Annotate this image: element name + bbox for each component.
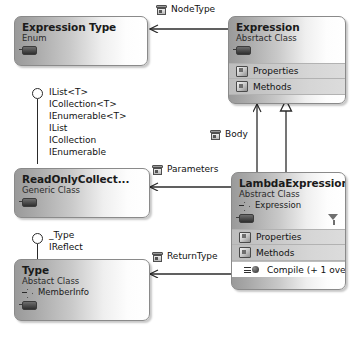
property-box-icon: [156, 5, 167, 15]
base-class-row: MemberInfo: [22, 287, 142, 298]
class-stereotype: Abstract Class: [239, 189, 338, 199]
base-class-row: Expression: [239, 200, 338, 211]
association-label-text: Parameters: [167, 164, 219, 175]
property-box-icon: [210, 130, 221, 140]
class-diagram-canvas: NodeType Body Parameters ReturnType ILis…: [0, 0, 361, 338]
class-stereotype: Generic Class: [22, 185, 142, 195]
member-label: Compile (+ 1 ove...: [267, 264, 346, 276]
class-name: Expression Type: [22, 21, 140, 33]
folder-icon: [239, 247, 251, 258]
interface-label: IEnumerable: [49, 147, 106, 159]
compartment-label: Methods: [253, 81, 291, 93]
compartment-label: Properties: [253, 65, 298, 77]
class-name: Expression: [236, 21, 338, 33]
interface-lollipop-readonlycollection[interactable]: IList<T> ICollection<T> IEnumerable<T> I…: [32, 88, 152, 168]
filter-funnel-icon[interactable]: [328, 214, 339, 225]
compartment-methods[interactable]: Methods: [232, 245, 345, 261]
compartment-label: Properties: [256, 231, 301, 243]
class-name: Type: [22, 264, 142, 276]
compartment-label: Methods: [256, 247, 294, 259]
class-box-expression[interactable]: Expression Absrtact Class Properties Met…: [228, 16, 346, 104]
member-compile[interactable]: Compile (+ 1 ove...: [232, 261, 345, 277]
association-label-text: ReturnType: [167, 251, 218, 262]
interface-label: ICollection<T>: [49, 99, 117, 111]
interface-label: IEnumerable<T>: [49, 111, 127, 123]
collapse-pill-icon[interactable]: [236, 46, 251, 55]
class-header: LambdaExpression Abstract Class Expressi…: [232, 173, 345, 227]
compartment-properties[interactable]: Properties: [229, 63, 345, 79]
class-box-readonlycollection[interactable]: ReadOnlyCollect... Generic Class: [14, 168, 150, 218]
class-header: Type Abstact Class MemberInfo: [15, 260, 149, 314]
association-label-returntype[interactable]: ReturnType: [152, 251, 218, 262]
collapse-pill-icon[interactable]: [239, 214, 254, 223]
compartment-methods[interactable]: Methods: [229, 79, 345, 95]
interface-label: IList<T>: [49, 87, 88, 99]
base-class-name: MemberInfo: [38, 287, 89, 298]
class-stereotype: Abstact Class: [22, 276, 142, 286]
inheritance-arrow-icon: [22, 289, 34, 297]
interface-label: ICollection: [49, 135, 96, 147]
interface-label: IReflect: [49, 242, 83, 254]
inheritance-arrow-icon: [239, 202, 251, 210]
collapse-pill-icon[interactable]: [22, 46, 37, 55]
folder-icon: [236, 66, 248, 77]
base-class-name: Expression: [255, 200, 301, 211]
interface-circle-icon: [32, 233, 43, 244]
collapse-pill-icon[interactable]: [22, 198, 37, 207]
class-header: Expression Type Enum: [15, 17, 147, 59]
interface-stem: [37, 99, 38, 164]
class-box-type[interactable]: Type Abstact Class MemberInfo: [14, 259, 150, 321]
association-label-nodetype[interactable]: NodeType: [156, 4, 215, 15]
interface-label: IList: [49, 123, 67, 135]
interface-circle-icon: [32, 88, 43, 99]
association-label-text: Body: [225, 129, 248, 140]
folder-icon: [236, 81, 248, 92]
association-label-parameters[interactable]: Parameters: [152, 164, 219, 175]
interface-label: _Type: [49, 230, 74, 242]
association-label-body[interactable]: Body: [210, 129, 248, 140]
class-stereotype: Enum: [22, 33, 140, 43]
property-box-icon: [152, 165, 163, 175]
class-header: Expression Absrtact Class: [229, 17, 345, 59]
class-name: LambdaExpression: [239, 177, 338, 189]
collapse-pill-icon[interactable]: [22, 301, 37, 310]
class-box-expression-type[interactable]: Expression Type Enum: [14, 16, 148, 66]
class-header: ReadOnlyCollect... Generic Class: [15, 169, 149, 211]
class-box-lambdaexpression[interactable]: LambdaExpression Abstract Class Expressi…: [231, 172, 346, 290]
class-name: ReadOnlyCollect...: [22, 173, 142, 185]
compartment-properties[interactable]: Properties: [232, 229, 345, 245]
association-label-text: NodeType: [171, 4, 215, 15]
folder-icon: [239, 232, 251, 243]
class-stereotype: Absrtact Class: [236, 33, 338, 43]
property-box-icon: [152, 252, 163, 262]
method-icon: [244, 265, 262, 274]
